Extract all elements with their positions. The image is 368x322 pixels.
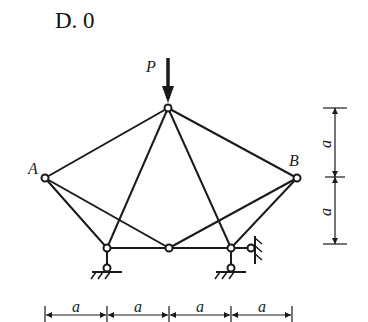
- member-b-mid-bottom: [169, 178, 297, 248]
- truss-members: [45, 108, 297, 248]
- member-top-b: [168, 108, 297, 178]
- horizontal-dimension: [45, 306, 292, 322]
- load-label: P: [145, 58, 156, 75]
- member-top-left-bottom: [107, 108, 168, 248]
- member-a-mid-bottom: [45, 178, 169, 248]
- load-arrow: [162, 58, 174, 103]
- node-a: [42, 175, 49, 182]
- dim-horizontal-label-1: a: [72, 298, 80, 315]
- member-b-right-bottom: [231, 178, 297, 248]
- member-top-a: [45, 108, 168, 178]
- left-support: [91, 251, 122, 279]
- right-support-vertical: [215, 251, 246, 279]
- vertical-dimension: [323, 108, 347, 244]
- member-top-right-bottom: [168, 108, 231, 248]
- node-a-label: A: [27, 160, 38, 177]
- member-a-left-bottom: [45, 178, 107, 248]
- dim-horizontal-label-3: a: [196, 298, 204, 315]
- dim-horizontal-label-2: a: [134, 298, 142, 315]
- node-left-bottom: [104, 245, 111, 252]
- node-b: [294, 175, 301, 182]
- node-right-bottom: [228, 245, 235, 252]
- truss-diagram: P A B a: [0, 0, 368, 322]
- truss-nodes: [42, 105, 301, 252]
- node-b-label: B: [289, 152, 299, 169]
- dim-vertical-top-label: a: [317, 140, 334, 148]
- node-mid-bottom: [166, 245, 173, 252]
- dim-horizontal-label-4: a: [258, 298, 266, 315]
- node-top: [165, 105, 172, 112]
- dim-vertical-bottom-label: a: [317, 208, 334, 216]
